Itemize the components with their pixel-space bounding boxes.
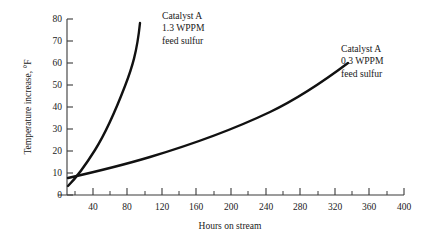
x-tick-label: 120 xyxy=(155,202,170,212)
annotation-line: 1.3 WPPM xyxy=(162,22,204,34)
y-tick-label: 60 xyxy=(53,58,63,68)
y-tick-label: 80 xyxy=(53,14,63,24)
x-tick-label: 360 xyxy=(362,202,377,212)
annotation-line: 0.3 WPPM xyxy=(341,55,383,67)
chart-canvas: 80 70 60 50 40 30 20 10 0 xyxy=(0,0,445,243)
y-tick-label: 30 xyxy=(53,124,63,134)
x-tick-label: 200 xyxy=(224,202,239,212)
y-tick-label: 10 xyxy=(53,168,63,178)
annotation-catalyst-a-high-sulfur: Catalyst A 1.3 WPPM feed sulfur xyxy=(162,10,204,47)
x-tick-label: 280 xyxy=(293,202,308,212)
chart-figure: 80 70 60 50 40 30 20 10 0 xyxy=(0,0,445,243)
y-tick-label: 40 xyxy=(53,102,63,112)
series-line-catalyst-a-1-3-wppm xyxy=(68,23,140,186)
x-tick-label: 320 xyxy=(328,202,343,212)
x-tick-label: 80 xyxy=(122,202,132,212)
annotation-catalyst-a-low-sulfur: Catalyst A 0.3 WPPM feed sulfur xyxy=(341,43,383,80)
x-tick-label: 400 xyxy=(397,202,412,212)
y-tick-label: 50 xyxy=(53,80,63,90)
x-tick-label: 40 xyxy=(88,202,98,212)
y-tick-label: 0 xyxy=(57,190,62,200)
x-axis-tick-labels: 40 80 120 160 200 240 280 320 360 400 xyxy=(88,202,411,212)
annotation-line: feed sulfur xyxy=(341,68,383,80)
y-tick-label: 20 xyxy=(53,146,63,156)
x-axis-ticks xyxy=(75,188,404,195)
annotation-line: Catalyst A xyxy=(341,43,383,55)
annotation-line: Catalyst A xyxy=(162,10,204,22)
annotation-line: feed sulfur xyxy=(162,35,204,47)
y-axis-tick-labels: 80 70 60 50 40 30 20 10 0 xyxy=(53,14,63,200)
x-tick-label: 160 xyxy=(189,202,204,212)
x-axis-title: Hours on stream xyxy=(199,221,262,231)
y-axis-title: Temperature increase, °F xyxy=(23,59,33,154)
x-tick-label: 240 xyxy=(259,202,274,212)
y-tick-label: 70 xyxy=(53,36,63,46)
y-axis-ticks xyxy=(67,19,73,195)
